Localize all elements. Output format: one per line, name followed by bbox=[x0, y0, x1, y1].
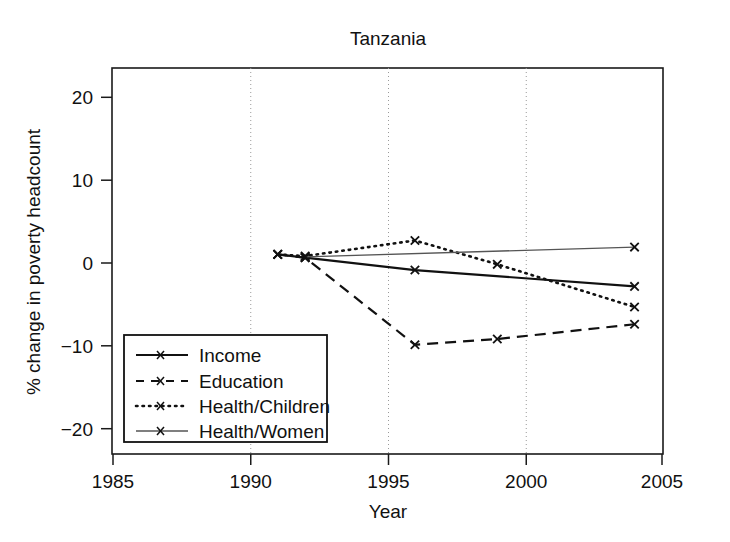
y-tick-label-minus10: −10 bbox=[61, 336, 93, 357]
x-tick-label-2000: 2000 bbox=[505, 471, 547, 492]
chart-background bbox=[0, 0, 730, 542]
y-tick-label-20: 20 bbox=[72, 87, 93, 108]
legend-label-health-women: Health/Women bbox=[199, 421, 324, 442]
chart-figure: Tanzania 20 10 0 −10 −20 bbox=[0, 0, 730, 542]
chart-legend[interactable]: Income Education Health/Children bbox=[124, 335, 330, 442]
chart-title: Tanzania bbox=[350, 28, 426, 49]
x-tick-label-1990: 1990 bbox=[230, 471, 272, 492]
y-tick-label-10: 10 bbox=[72, 170, 93, 191]
x-tick-label-1985: 1985 bbox=[92, 471, 134, 492]
line-chart-canvas: Tanzania 20 10 0 −10 −20 bbox=[0, 0, 730, 542]
y-tick-label-minus20: −20 bbox=[61, 419, 93, 440]
y-axis-title: % change in poverty headcount bbox=[23, 128, 44, 395]
x-tick-label-1995: 1995 bbox=[367, 471, 409, 492]
x-tick-label-2005: 2005 bbox=[641, 471, 683, 492]
x-axis-title: Year bbox=[369, 501, 408, 522]
y-tick-label-0: 0 bbox=[82, 253, 93, 274]
legend-label-income: Income bbox=[199, 345, 261, 366]
legend-label-education: Education bbox=[199, 371, 284, 392]
legend-label-health-children: Health/Children bbox=[199, 396, 330, 417]
